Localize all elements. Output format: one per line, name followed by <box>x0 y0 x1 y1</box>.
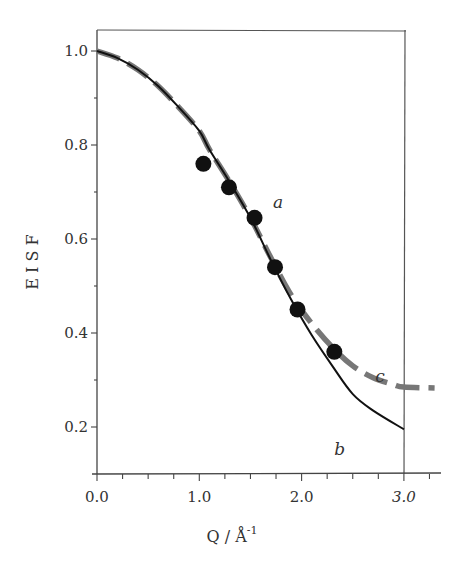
data-point <box>195 156 211 172</box>
data-point <box>247 210 263 226</box>
curve-label-a: a <box>273 192 283 212</box>
eisf-chart: 0.01.02.03.0 1.00.80.60.40.2 abc Q / Å-1… <box>0 0 460 574</box>
x-axis-title: Q / Å-1 <box>207 524 258 546</box>
data-point <box>326 344 342 360</box>
x-tick-label: 1.0 <box>187 488 211 506</box>
data-point <box>267 259 283 275</box>
y-tick-label: 0.4 <box>64 324 88 342</box>
y-axis-ticks: 1.00.80.60.40.2 <box>64 42 97 436</box>
x-axis-line <box>92 473 441 474</box>
x-tick-label: 0.0 <box>85 488 109 506</box>
curve-b <box>97 51 404 429</box>
curve-label-c: c <box>375 366 385 386</box>
y-tick-label: 0.6 <box>64 230 88 248</box>
y-tick-label: 0.2 <box>64 418 88 436</box>
x-tick-label: 3.0 <box>392 488 416 506</box>
x-axis-ticks: 0.01.02.03.0 <box>85 474 429 506</box>
right-border-line <box>404 30 405 474</box>
curve-c <box>97 51 435 388</box>
y-tick-label: 1.0 <box>64 42 88 60</box>
x-axis-title-superscript: -1 <box>247 524 258 537</box>
curve-label-b: b <box>334 439 345 459</box>
data-point <box>221 179 237 195</box>
curve-labels: abc <box>273 192 385 459</box>
y-axis-title: E I S F <box>23 234 42 289</box>
data-point <box>290 302 306 318</box>
top-border-line <box>97 30 406 31</box>
y-tick-label: 0.8 <box>64 136 88 154</box>
x-tick-label: 2.0 <box>290 488 314 506</box>
